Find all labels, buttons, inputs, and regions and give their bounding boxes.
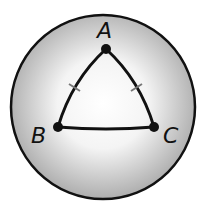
vertex-b-point xyxy=(53,122,63,132)
vertex-a-label: A xyxy=(95,18,112,43)
vertex-a-point xyxy=(101,44,111,54)
vertex-c-point xyxy=(149,122,159,132)
vertex-c-label: C xyxy=(163,123,179,148)
spherical-triangle-diagram: A B C xyxy=(0,0,206,208)
vertex-b-label: B xyxy=(31,123,46,148)
